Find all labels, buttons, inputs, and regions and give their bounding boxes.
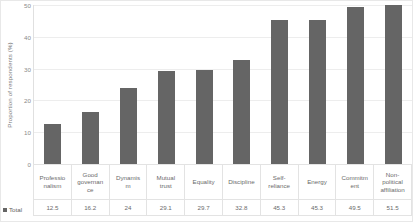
bar-energy[interactable] — [309, 20, 326, 164]
bar-slot — [72, 5, 110, 164]
y-axis-title: Proportion of respondents (%) — [5, 42, 12, 127]
bar-dynamism[interactable] — [120, 88, 137, 164]
table-cell-category: Goodgovernance — [71, 165, 109, 199]
table-cell-category: Discipline — [222, 165, 260, 199]
data-table: Total ProfessionalismGoodgovernanceDynam… — [1, 164, 412, 221]
bar-slot — [223, 5, 261, 164]
plot-canvas — [33, 5, 412, 164]
bar-slot — [34, 5, 72, 164]
table-cell-value: 24 — [109, 200, 147, 215]
y-axis-title-container: Proportion of respondents (%) — [1, 5, 16, 164]
table-cell-category: Equality — [184, 165, 222, 199]
table-cell-category: Dynamism — [109, 165, 147, 199]
table-cell-category: Non-politicalaffiliation — [373, 165, 412, 199]
table-cell-category: Self-reliance — [260, 165, 298, 199]
table-cell-value: 32.8 — [222, 200, 260, 215]
table-cell-value: 49.5 — [335, 200, 373, 215]
bar-slot — [110, 5, 148, 164]
legend-label-total: Total — [9, 206, 22, 213]
bar-equality[interactable] — [196, 70, 213, 164]
bar-slot — [299, 5, 337, 164]
bar-self-reliance[interactable] — [271, 20, 288, 164]
plot-area: Proportion of respondents (%) 5040302010… — [1, 5, 412, 164]
table-cell-value: 51.5 — [373, 200, 412, 215]
table-cell-value: 29.1 — [146, 200, 184, 215]
table-cell-category: Commitment — [335, 165, 373, 199]
bar-chart-figure: Proportion of respondents (%) 5040302010… — [0, 0, 413, 222]
legend: Total — [1, 164, 33, 221]
bar-slot — [185, 5, 223, 164]
y-tick-label-10: 10 — [24, 129, 31, 136]
table-cell-category: Professionalism — [33, 165, 71, 199]
y-tick-label-40: 40 — [24, 33, 31, 40]
bar-slot — [336, 5, 374, 164]
table-cell-value: 45.3 — [298, 200, 336, 215]
bar-mutual-trust[interactable] — [158, 71, 175, 164]
table-row-categories: ProfessionalismGoodgovernanceDynamismMut… — [33, 164, 412, 199]
table-cell-category: Energy — [298, 165, 336, 199]
y-tick-label-50: 50 — [24, 2, 31, 9]
table-row-values: 12.516.22429.129.732.845.345.349.551.5 — [33, 199, 412, 216]
table-cell-value: 12.5 — [33, 200, 71, 215]
bar-good-governance[interactable] — [82, 112, 99, 164]
table-cell-value: 16.2 — [71, 200, 109, 215]
bar-non-political-affiliation[interactable] — [385, 5, 402, 164]
y-tick-label-20: 20 — [24, 97, 31, 104]
bar-professionalism[interactable] — [44, 124, 61, 164]
bar-discipline[interactable] — [233, 60, 250, 164]
bar-commitment[interactable] — [347, 7, 364, 164]
table-cell-category: Mutualtrust — [146, 165, 184, 199]
table-cell-value: 45.3 — [260, 200, 298, 215]
table-cell-value: 29.7 — [184, 200, 222, 215]
square-marker-icon — [3, 208, 7, 212]
table-grid: ProfessionalismGoodgovernanceDynamismMut… — [33, 164, 412, 221]
y-tick-label-30: 30 — [24, 65, 31, 72]
y-axis-tick-labels: 50403020100 — [16, 5, 33, 164]
bar-series-total — [34, 5, 412, 164]
bar-slot — [147, 5, 185, 164]
bar-slot — [261, 5, 299, 164]
bar-slot — [374, 5, 412, 164]
